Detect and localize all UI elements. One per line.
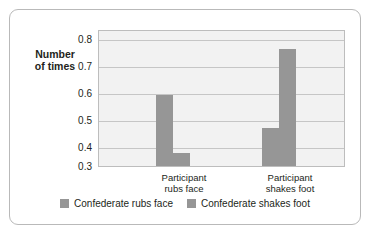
plot-area: [98, 30, 345, 167]
gridline-0.5: [99, 121, 344, 122]
legend-swatch-icon-confederate-rubs-face: [60, 199, 69, 208]
y-tick-label-3: 0.5: [60, 116, 92, 126]
y-axis-title-line-1: Number: [24, 48, 86, 60]
chart-figure: Number of times 0.8 0.7 0.6 0.5 0.4 0.3 …: [9, 9, 361, 225]
category-label-shakes-foot-line-2: shakes foot: [235, 183, 345, 194]
legend-entry-confederate-shakes-foot: Confederate shakes foot: [187, 198, 310, 209]
category-label-rubs-face-line-1: Participant: [129, 172, 239, 183]
y-tick-label-4: 0.4: [60, 143, 92, 153]
gridline-0.7: [99, 67, 344, 68]
bar-rubsface-confederate-shakes-foot: [173, 153, 190, 166]
gridline-0.6: [99, 94, 344, 95]
bar-shakesfoot-confederate-rubs-face: [262, 128, 279, 166]
legend-entry-confederate-rubs-face: Confederate rubs face: [60, 198, 173, 209]
gridline-0.8: [99, 40, 344, 41]
legend-label-confederate-shakes-foot: Confederate shakes foot: [201, 198, 310, 209]
y-tick-label-2: 0.6: [60, 89, 92, 99]
category-label-shakes-foot-line-1: Participant: [235, 172, 345, 183]
y-tick-label-5: 0.3: [60, 162, 92, 172]
chart-legend: Confederate rubs face Confederate shakes…: [10, 198, 360, 209]
category-label-rubs-face-line-2: rubs face: [129, 183, 239, 194]
legend-swatch-icon-confederate-shakes-foot: [187, 199, 196, 208]
bar-shakesfoot-confederate-shakes-foot: [279, 49, 296, 166]
y-tick-label-0: 0.8: [60, 35, 92, 45]
y-tick-label-1: 0.7: [60, 62, 92, 72]
bar-rubsface-confederate-rubs-face: [156, 95, 173, 166]
legend-label-confederate-rubs-face: Confederate rubs face: [74, 198, 173, 209]
category-label-rubs-face: Participant rubs face: [129, 172, 239, 194]
gridline-0.4: [99, 148, 344, 149]
category-label-shakes-foot: Participant shakes foot: [235, 172, 345, 194]
